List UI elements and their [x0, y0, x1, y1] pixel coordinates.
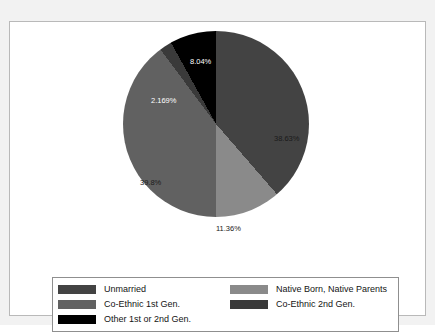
legend-item-label: Co-Ethnic 1st Gen. — [104, 300, 180, 309]
legend-entries: UnmarriedNative Born, Native ParentsCo-E… — [58, 282, 394, 327]
pie-plot-area: 38.63%11.36%39.8%2.169%8.04% — [10, 22, 425, 262]
legend-item[interactable]: Native Born, Native Parents — [230, 282, 394, 297]
legend-item[interactable]: Co-Ethnic 2nd Gen. — [230, 297, 394, 312]
pie-slices — [123, 31, 309, 217]
slice-percent-label: 38.63% — [274, 135, 299, 143]
legend-item-label: Unmarried — [104, 285, 146, 294]
legend-item-label: Other 1st or 2nd Gen. — [104, 315, 191, 324]
slice-percent-label: 8.04% — [190, 58, 211, 66]
slice-percent-label: 2.169% — [151, 97, 176, 105]
legend-color-swatch — [230, 285, 268, 294]
slice-percent-label: 11.36% — [216, 225, 241, 233]
chart-panel: 38.63%11.36%39.8%2.169%8.04% UnmarriedNa… — [9, 21, 426, 316]
legend-color-swatch — [58, 285, 96, 294]
legend-color-swatch — [230, 300, 268, 309]
legend-item[interactable]: Unmarried — [58, 282, 230, 297]
legend-color-swatch — [58, 315, 96, 324]
legend-item[interactable]: Other 1st or 2nd Gen. — [58, 312, 230, 327]
legend-color-swatch — [58, 300, 96, 309]
pie-chart: 38.63%11.36%39.8%2.169%8.04% — [123, 31, 309, 217]
legend-item-label: Native Born, Native Parents — [276, 285, 387, 294]
slice-percent-label: 39.8% — [140, 179, 161, 187]
legend-item[interactable]: Co-Ethnic 1st Gen. — [58, 297, 230, 312]
legend: UnmarriedNative Born, Native ParentsCo-E… — [52, 277, 399, 332]
legend-item-label: Co-Ethnic 2nd Gen. — [276, 300, 355, 309]
